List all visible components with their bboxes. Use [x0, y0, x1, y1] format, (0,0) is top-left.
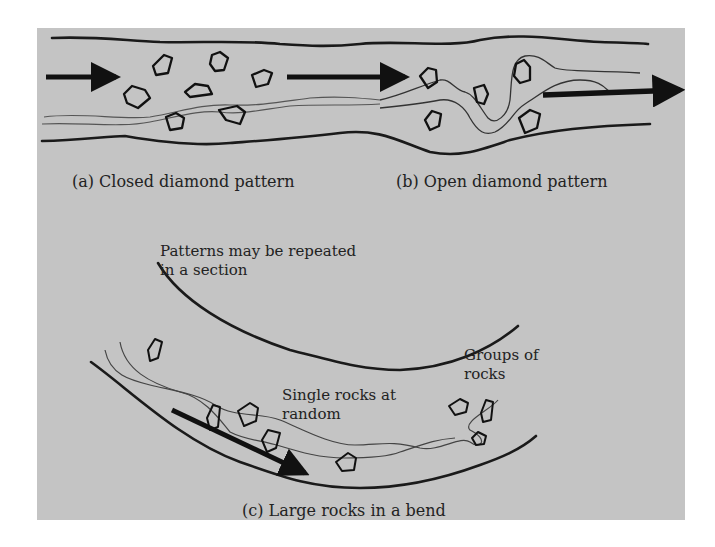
rock	[514, 60, 530, 83]
rock	[219, 106, 245, 124]
arrow-b-out	[543, 90, 680, 95]
rock	[185, 84, 212, 97]
rock	[519, 110, 540, 133]
annotation-groups-of-rocks: Groups of rocks	[464, 346, 539, 384]
annotation-single-rocks: Single rocks at random	[282, 386, 396, 424]
rock	[166, 113, 184, 130]
caption-b: (b) Open diamond pattern	[396, 172, 607, 191]
caption-c: (c) Large rocks in a bend	[242, 501, 446, 520]
rock	[262, 430, 280, 452]
rock	[449, 399, 468, 415]
rock	[474, 85, 488, 104]
rocks-closed-diamond	[124, 52, 272, 130]
river-rock-diagram	[0, 0, 715, 547]
rocks-open-diamond	[420, 60, 540, 133]
rock	[481, 400, 493, 422]
annotation-patterns-repeated: Patterns may be repeated in a section	[160, 242, 356, 280]
bottom-bank	[42, 124, 650, 154]
rock	[148, 339, 162, 361]
rock	[472, 432, 486, 445]
rock	[153, 55, 172, 75]
rock	[420, 68, 437, 88]
rock	[252, 70, 272, 87]
rock	[210, 52, 228, 71]
top-bank	[52, 37, 648, 46]
rock	[336, 453, 356, 471]
rock	[425, 111, 441, 130]
flow-lines-a	[42, 97, 380, 125]
rock	[124, 86, 150, 108]
caption-a: (a) Closed diamond pattern	[72, 172, 295, 191]
